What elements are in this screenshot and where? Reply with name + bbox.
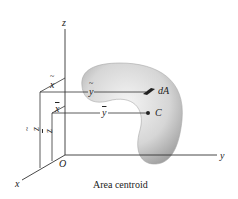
centroid-label: C [155,108,162,118]
centroid-point-icon [146,111,150,115]
z-axis-label: z [62,18,66,28]
z-bar-label: z [47,126,51,136]
z-tilde-label: z [34,124,38,134]
z-bar-text: z [44,129,54,133]
figure-caption: Area centroid [93,180,148,190]
origin-label: O [59,159,66,169]
z-tilde-text: z [31,127,41,131]
y-tilde-label: y [88,87,94,97]
area-shape [82,63,183,164]
area-centroid-diagram [0,0,238,199]
y-axis-label: y [220,151,224,161]
da-label: dA [158,86,169,96]
x-axis-label: x [15,179,19,189]
x-tilde-label: x [50,80,54,90]
x-bar-label: x [55,104,59,114]
y-bar-label: y [100,108,108,118]
